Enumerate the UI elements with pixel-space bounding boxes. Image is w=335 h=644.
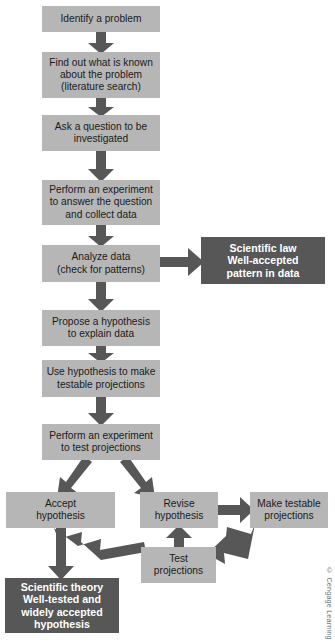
- arrow-revisehypothesis-to-maketestableprojections: [215, 497, 254, 523]
- arrow-identify-to-findout: [88, 30, 114, 54]
- node-identify-problem[interactable]: Identify a problem: [42, 6, 160, 32]
- node-scientific-theory[interactable]: Scientific theory Well-tested and widely…: [5, 578, 119, 633]
- node-analyze-data[interactable]: Analyze data (check for patterns): [42, 245, 160, 282]
- node-make-testable-projections[interactable]: Make testable projections: [250, 492, 328, 528]
- arrow-usehypothesis-to-performexperimenttest: [88, 395, 114, 426]
- node-propose-hypothesis[interactable]: Propose a hypothesis to explain data: [42, 310, 160, 346]
- arrow-accepthypothesis-to-scientifictheory: [48, 526, 74, 580]
- node-perform-experiment-answer-question[interactable]: Perform an experiment to answer the ques…: [42, 180, 160, 225]
- arrow-performexperiment-to-analyzedata: [88, 223, 114, 247]
- arrow-analyzedata-to-proposehypothesis: [88, 280, 114, 312]
- node-use-hypothesis[interactable]: Use hypothesis to make testable projecti…: [42, 360, 160, 397]
- node-accept-hypothesis[interactable]: Accept hypothesis: [6, 492, 115, 528]
- arrow-analyzedata-to-scientificlaw: [158, 248, 204, 276]
- node-find-out-what-is-known[interactable]: Find out what is known about the problem…: [42, 52, 160, 98]
- node-revise-hypothesis[interactable]: Revise hypothesis: [140, 492, 218, 528]
- node-perform-experiment-test-projections[interactable]: Perform an experiment to test projection…: [42, 424, 160, 460]
- arrow-findout-to-askquestion: [88, 96, 114, 117]
- node-ask-a-question[interactable]: Ask a question to be investigated: [42, 115, 160, 151]
- node-scientific-law[interactable]: Scientific law Well-accepted pattern in …: [201, 237, 325, 284]
- arrow-askquestion-to-performexperiment: [88, 149, 114, 182]
- node-test-projections[interactable]: Test projections: [141, 547, 216, 583]
- flowchart-figure: Identify a problem Find out what is know…: [0, 0, 335, 644]
- copyright-credit: © Cengage Learning: [325, 566, 334, 640]
